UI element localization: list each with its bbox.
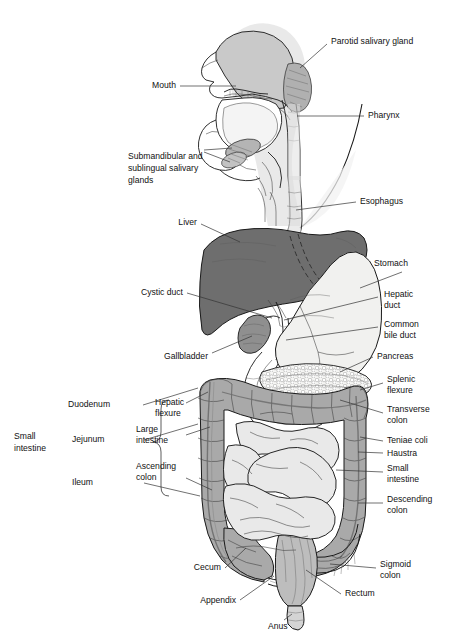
- label-jejunum: Jejunum: [72, 434, 104, 444]
- label-submandibular-line3: glands: [128, 175, 153, 185]
- label-ascending-colon-line1: Ascending: [136, 461, 176, 471]
- label-rectum: Rectum: [345, 588, 375, 598]
- label-small-intestine-right-line2: intestine: [387, 474, 419, 484]
- label-hepatic-flexure-line1: Hepatic: [155, 397, 185, 407]
- label-descending-colon-line1: Descending: [387, 494, 433, 504]
- label-splenic-flexure-line2: flexure: [387, 385, 413, 395]
- label-large-intestine-line1: Large: [136, 424, 158, 434]
- digestive-system-figure: Parotid salivary gland Mouth Pharynx Sub…: [0, 0, 453, 639]
- label-small-intestine-group-line1: Small: [14, 431, 36, 441]
- label-esophagus: Esophagus: [360, 196, 403, 206]
- label-hepatic-flexure-line2: flexure: [155, 408, 181, 418]
- label-cecum: Cecum: [194, 562, 221, 572]
- label-small-intestine-group-line2: intestine: [14, 443, 46, 453]
- label-transverse-colon-line2: colon: [387, 415, 408, 425]
- label-submandibular-line1: Submandibular and: [128, 151, 203, 161]
- label-common-bile-duct-line2: bile duct: [384, 330, 417, 340]
- label-descending-colon-line2: colon: [387, 505, 408, 515]
- label-large-intestine-line2: intestine: [136, 435, 168, 445]
- label-liver: Liver: [178, 217, 197, 227]
- label-common-bile-duct-line1: Common: [384, 319, 419, 329]
- label-anus: Anus: [268, 621, 288, 631]
- label-pancreas: Pancreas: [377, 351, 413, 361]
- label-sigmoid-colon-line2: colon: [380, 570, 401, 580]
- label-sigmoid-colon-line1: Sigmoid: [380, 559, 411, 569]
- label-gallbladder: Gallbladder: [164, 351, 208, 361]
- label-splenic-flexure-line1: Splenic: [387, 374, 416, 384]
- label-parotid-salivary-gland: Parotid salivary gland: [331, 36, 413, 46]
- label-appendix: Appendix: [200, 595, 237, 605]
- label-ileum: Ileum: [72, 477, 93, 487]
- label-haustra: Haustra: [387, 448, 417, 458]
- label-cystic-duct: Cystic duct: [141, 287, 184, 297]
- label-pharynx: Pharynx: [368, 110, 400, 120]
- digestive-system-diagram: Parotid salivary gland Mouth Pharynx Sub…: [0, 0, 453, 639]
- anus-structure: [287, 606, 304, 630]
- label-ascending-colon-line2: colon: [136, 472, 157, 482]
- label-submandibular-line2: sublingual salivary: [128, 163, 199, 173]
- label-transverse-colon-line1: Transverse: [387, 404, 430, 414]
- label-small-intestine-right-line1: Small: [387, 463, 409, 473]
- label-duodenum: Duodenum: [68, 399, 110, 409]
- small-intestine-structure: [223, 412, 339, 551]
- label-teniae-coli: Teniae coli: [387, 435, 428, 445]
- label-hepatic-duct-line2: duct: [384, 300, 401, 310]
- label-hepatic-duct-line1: Hepatic: [384, 289, 414, 299]
- label-stomach: Stomach: [374, 258, 408, 268]
- label-mouth: Mouth: [152, 80, 176, 90]
